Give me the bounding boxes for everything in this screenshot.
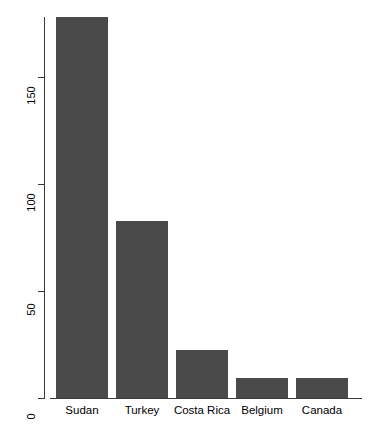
plot-area: 0 50 100 150 Sudan Turkey Costa Rica Bel… xyxy=(0,0,378,428)
bar-belgium xyxy=(236,378,288,398)
bar-turkey xyxy=(116,221,168,398)
x-axis-line xyxy=(50,398,362,399)
y-axis-line xyxy=(44,17,45,399)
y-tick-label-50: 50 xyxy=(26,292,37,328)
y-tick-label-100: 100 xyxy=(26,185,37,221)
y-tick-mark-150 xyxy=(38,77,44,78)
y-tick-mark-100 xyxy=(38,184,44,185)
y-tick-label-0: 0 xyxy=(26,399,37,428)
x-tick-label-costa-rica: Costa Rica xyxy=(170,404,234,417)
x-tick-label-turkey: Turkey xyxy=(112,404,172,417)
x-tick-label-belgium: Belgium xyxy=(232,404,292,417)
bar-sudan xyxy=(56,17,108,398)
y-tick-mark-0 xyxy=(38,398,44,399)
x-tick-label-canada: Canada xyxy=(292,404,352,417)
x-tick-label-sudan: Sudan xyxy=(52,404,112,417)
bar-costa-rica xyxy=(176,350,228,398)
bar-canada xyxy=(296,378,348,398)
bar-chart: 0 50 100 150 Sudan Turkey Costa Rica Bel… xyxy=(0,0,378,428)
y-tick-mark-50 xyxy=(38,291,44,292)
y-tick-label-150: 150 xyxy=(26,78,37,114)
